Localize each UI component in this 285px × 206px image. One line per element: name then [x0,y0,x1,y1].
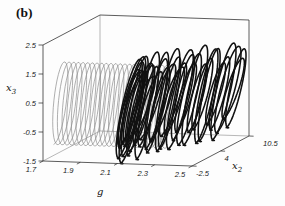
g-axis-label: g [97,187,103,200]
x3-axis-label-sub: 3 [12,88,16,96]
x3-tick-label: -0.5 [23,128,37,137]
top-back-edge [100,15,249,20]
g-tick-label: 2.5 [174,170,186,179]
plot-3d-canvas: 2.51.50.5-0.5-1.51.71.92.12.32.5-2.5410.… [0,0,285,206]
x3-axis-label: x3 [6,83,16,96]
x2-axis-label: x2 [232,161,242,174]
trajectory-coils [53,43,246,164]
g-tick-label: 1.9 [63,166,74,175]
g-tick-label: 1.7 [26,165,37,174]
g-axis-label-base: g [97,186,103,197]
figure-3d-phase-plot: 2.51.50.5-0.5-1.51.71.92.12.32.5-2.5410.… [0,0,285,206]
x3-tick-label: 0.5 [25,99,36,108]
top-left-edge [43,15,100,45]
floor-left-edge [43,131,100,161]
x2-axis-label-sub: 2 [238,166,242,174]
x3-tick-label: 2.5 [24,41,36,50]
x2-tick-label: -2.5 [196,169,210,178]
x3-tick-label: 1.5 [25,70,36,79]
g-tick-label: 2.1 [99,168,111,177]
x2-tick-label: 10.5 [263,139,279,148]
x2-tick-label: 4 [225,154,229,163]
g-tick-label: 2.3 [136,169,148,178]
panel-label: (b) [16,5,33,21]
